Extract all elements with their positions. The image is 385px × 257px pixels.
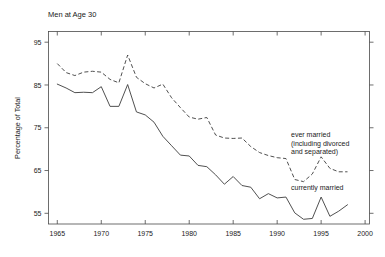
y-axis-title: Percentage of Total — [13, 97, 22, 159]
x-tick-label-1970: 1970 — [93, 230, 109, 237]
x-tick-label-1990: 1990 — [269, 230, 285, 237]
x-tick-label-1985: 1985 — [225, 230, 241, 237]
chart-figure: Men at Age 30 19651970197519801985199019… — [0, 0, 385, 257]
chart-title: Men at Age 30 — [48, 10, 96, 19]
x-tick-label-2000: 2000 — [357, 230, 373, 237]
x-tick-label-1980: 1980 — [181, 230, 197, 237]
annotation-currently-married-label: currently married — [291, 184, 344, 192]
y-tick-label-55: 55 — [34, 210, 42, 217]
y-tick-label-65: 65 — [34, 167, 42, 174]
y-tick-label-75: 75 — [34, 124, 42, 131]
x-tick-label-1975: 1975 — [137, 230, 153, 237]
x-tick-label-1965: 1965 — [50, 230, 66, 237]
x-tick-label-1995: 1995 — [313, 230, 329, 237]
y-tick-label-85: 85 — [34, 82, 42, 89]
line-chart: Men at Age 30 19651970197519801985199019… — [0, 0, 385, 257]
y-tick-label-95: 95 — [34, 39, 42, 46]
chart-background — [0, 0, 385, 257]
